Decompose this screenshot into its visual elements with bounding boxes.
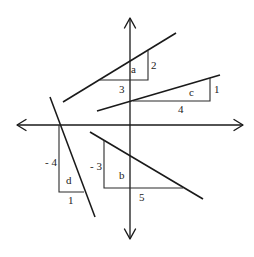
line-c-label: c: [189, 86, 194, 98]
line-d-group: - 4 d 1: [45, 97, 95, 217]
line-a-rise-label: 2: [151, 59, 157, 71]
line-b-run-label: 5: [139, 191, 145, 203]
line-b-rise-label: - 3: [90, 160, 102, 172]
line-a-group: a 2 3: [63, 33, 176, 102]
line-b-group: - 3 b 5: [90, 132, 203, 203]
line-d-run-label: 1: [68, 194, 74, 206]
line-a-run-label: 3: [119, 83, 125, 95]
line-c-run-label: 4: [178, 103, 184, 115]
line-c-group: c 1 4: [97, 75, 220, 115]
slope-diagram: a 2 3 c 1 4 - 4 d 1 - 3 b 5: [0, 0, 254, 257]
line-d-rise-label: - 4: [45, 156, 57, 168]
y-axis: [125, 18, 136, 239]
line-b-label: b: [119, 169, 125, 181]
slope-triangle-d: [59, 125, 84, 192]
line-a-label: a: [131, 63, 136, 75]
line-d-label: d: [66, 174, 72, 186]
line-b: [90, 132, 203, 199]
line-c-rise-label: 1: [214, 83, 220, 95]
